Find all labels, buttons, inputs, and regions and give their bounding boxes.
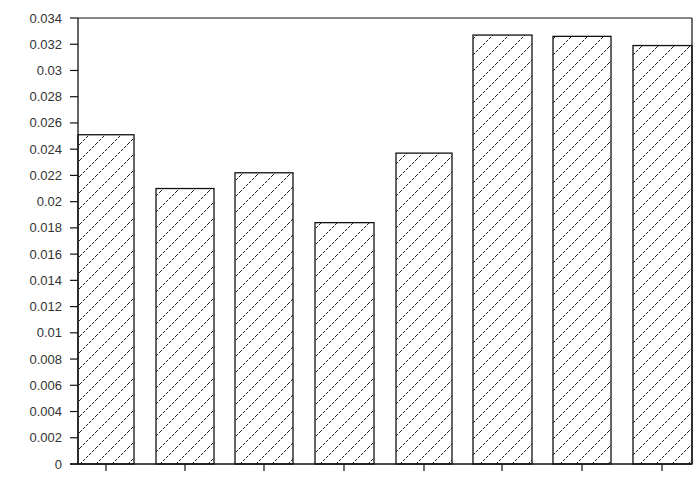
y-tick-label: 0.004 — [29, 404, 62, 419]
y-tick-label: 0.012 — [29, 299, 62, 314]
y-tick-label: 0.014 — [29, 273, 62, 288]
y-tick-label: 0.01 — [37, 325, 62, 340]
y-tick-label: 0.028 — [29, 89, 62, 104]
x-axis — [70, 464, 692, 471]
y-tick-label: 0.024 — [29, 142, 62, 157]
y-tick-label: 0.018 — [29, 220, 62, 235]
y-tick-label: 0.034 — [29, 11, 62, 26]
y-tick-label: 0.03 — [37, 63, 62, 78]
bar-2 — [156, 189, 214, 464]
bar-4 — [315, 223, 374, 464]
bars-group — [78, 35, 692, 464]
bar-1 — [78, 135, 134, 464]
y-tick-label: 0.02 — [37, 194, 62, 209]
bar-7 — [553, 36, 611, 464]
y-tick-label: 0 — [55, 457, 62, 472]
y-tick-label: 0.026 — [29, 115, 62, 130]
y-tick-label: 0.022 — [29, 168, 62, 183]
bar-6 — [473, 35, 532, 464]
bar-chart: 00.0020.0040.0060.0080.010.0120.0140.016… — [0, 0, 696, 493]
bar-5 — [396, 153, 452, 464]
y-tick-label: 0.008 — [29, 352, 62, 367]
bar-8 — [633, 46, 692, 464]
y-tick-label: 0.016 — [29, 247, 62, 262]
y-tick-label: 0.002 — [29, 430, 62, 445]
bar-3 — [235, 173, 293, 464]
y-axis: 00.0020.0040.0060.0080.010.0120.0140.016… — [29, 11, 78, 472]
y-tick-label: 0.006 — [29, 378, 62, 393]
y-tick-label: 0.032 — [29, 37, 62, 52]
